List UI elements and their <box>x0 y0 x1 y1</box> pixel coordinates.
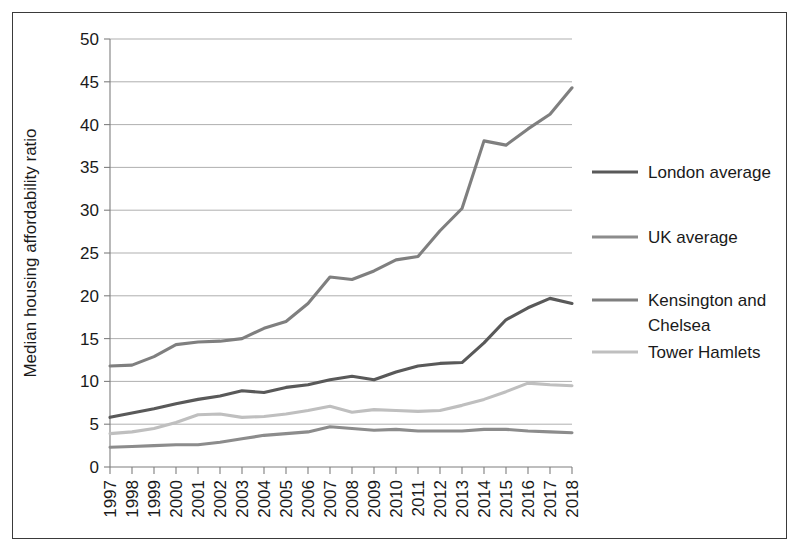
x-tick-label: 2004 <box>255 480 274 518</box>
x-tick-label: 2000 <box>167 480 186 518</box>
x-tick-label: 2013 <box>453 480 472 518</box>
x-tick-label: 2007 <box>321 480 340 518</box>
legend-label-2[interactable]: UK average <box>648 228 738 247</box>
x-tick-label: 1999 <box>145 480 164 518</box>
y-tick-label: 5 <box>90 415 99 434</box>
x-tick-label: 2003 <box>233 480 252 518</box>
y-tick-label: 10 <box>80 372 99 391</box>
series-line-tower-hamlets <box>110 383 572 434</box>
x-tick-label: 2015 <box>497 480 516 518</box>
legend-label-3[interactable]: Kensington and <box>648 291 766 310</box>
y-axis-title: Median housing affordability ratio <box>21 128 40 377</box>
y-tick-label: 35 <box>80 158 99 177</box>
x-tick-label: 2002 <box>211 480 230 518</box>
y-tick-label: 25 <box>80 244 99 263</box>
x-tick-label: 2009 <box>365 480 384 518</box>
x-tick-label: 2001 <box>189 480 208 518</box>
x-tick-label: 2010 <box>387 480 406 518</box>
x-tick-label: 2012 <box>431 480 450 518</box>
y-tick-label: 30 <box>80 201 99 220</box>
x-tick-label: 2017 <box>541 480 560 518</box>
x-tick-label: 2006 <box>299 480 318 518</box>
x-tick-label: 2005 <box>277 480 296 518</box>
y-tick-label: 45 <box>80 73 99 92</box>
y-tick-label: 20 <box>80 287 99 306</box>
x-tick-label: 2016 <box>519 480 538 518</box>
x-tick-label: 2008 <box>343 480 362 518</box>
x-tick-label: 2014 <box>475 480 494 518</box>
x-tick-label: 1998 <box>123 480 142 518</box>
y-tick-label: 15 <box>80 330 99 349</box>
x-tick-label: 2011 <box>409 480 428 517</box>
legend-label-3-line2[interactable]: Chelsea <box>648 316 711 335</box>
x-tick-label: 2018 <box>563 480 582 518</box>
y-tick-label: 50 <box>80 30 99 49</box>
chart-container: 0510152025303540455019971998199920002001… <box>0 0 799 551</box>
y-tick-label: 0 <box>90 458 99 477</box>
series-line-uk-average <box>110 427 572 448</box>
x-tick-label: 1997 <box>101 480 120 518</box>
legend-label-4[interactable]: Tower Hamlets <box>648 343 760 362</box>
line-chart: 0510152025303540455019971998199920002001… <box>0 0 799 551</box>
legend-label-1[interactable]: London average <box>648 163 771 182</box>
y-tick-label: 40 <box>80 116 99 135</box>
series-line-london-average <box>110 298 572 417</box>
